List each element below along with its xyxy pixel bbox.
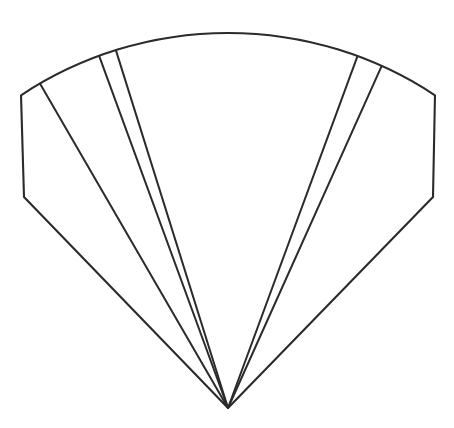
fan-diagram: Folding hand fan outline xyxy=(0,0,454,428)
canvas-background xyxy=(0,0,454,428)
